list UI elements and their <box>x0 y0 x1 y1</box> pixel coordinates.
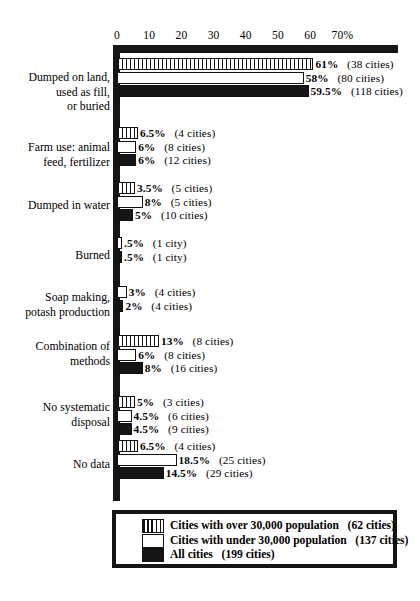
bar-value-label: 3% (4 cities) <box>127 286 196 298</box>
bar-hatch <box>117 182 135 194</box>
bar-value-label: 6% (8 cities) <box>136 349 205 361</box>
bar-percent: 3% <box>129 286 146 298</box>
bar-white <box>117 454 177 466</box>
bar-row: 6% (8 cities) <box>117 141 205 153</box>
bar-value-label: 14.5% (29 cities) <box>164 467 253 479</box>
bar-value-label: 6.5% (4 cities) <box>138 440 215 452</box>
bar-city-count: (12 cities) <box>164 154 211 166</box>
bar-black <box>117 423 132 435</box>
bar-row: 8% (5 cities) <box>117 196 212 208</box>
bar-row: 6.5% (4 cities) <box>117 127 215 139</box>
bar-percent: 8% <box>145 196 162 208</box>
legend-item: Cities with over 30,000 population (62 c… <box>142 519 393 533</box>
category-label: Dumped on land, used as fill, or buried <box>0 70 110 114</box>
bar-city-count: (38 cities) <box>347 58 394 70</box>
bar-row: 3.5% (5 cities) <box>117 182 212 194</box>
bar-value-label: 6.5% (4 cities) <box>138 127 215 139</box>
bar-value-label: .5% (1 city) <box>122 251 187 263</box>
bar-value-label: 58% (80 cities) <box>304 72 384 84</box>
bar-percent: 61% <box>315 58 338 70</box>
horizontal-bar-chart: 010203040506070% Dumped on land, used as… <box>0 0 420 601</box>
category-label: No data <box>0 457 110 472</box>
bar-black <box>117 209 133 221</box>
bar-percent: 6% <box>138 154 155 166</box>
bar-city-count: (8 cities) <box>164 141 205 153</box>
bar-city-count: (9 cities) <box>168 423 209 435</box>
bar-value-label: 18.5% (25 cities) <box>177 454 266 466</box>
bar-city-count: (8 cities) <box>164 349 205 361</box>
bar-row: 4.5% (9 cities) <box>117 423 209 435</box>
legend-swatch-black <box>142 548 164 562</box>
bar-value-label: 5% (10 cities) <box>133 209 208 221</box>
bar-row: 14.5% (29 cities) <box>117 467 253 479</box>
bar-city-count: (118 cities) <box>351 85 403 97</box>
legend-label: All cities (199 cities) <box>170 548 275 562</box>
bar-row: .5% (1 city) <box>117 237 187 249</box>
bar-row: .5% (1 city) <box>117 251 187 263</box>
chart-legend: Cities with over 30,000 population (62 c… <box>112 510 397 568</box>
legend-swatch-white <box>142 534 164 548</box>
bar-percent: 8% <box>145 362 162 374</box>
bar-percent: 13% <box>161 335 184 347</box>
bar-city-count: (5 cities) <box>171 196 212 208</box>
category-label: Dumped in water <box>0 198 110 213</box>
bar-value-label: 59.5% (118 cities) <box>309 85 403 97</box>
legend-count: (137 cities) <box>355 534 408 547</box>
bar-percent: 6% <box>138 349 155 361</box>
legend-count: (199 cities) <box>222 548 275 561</box>
bar-white <box>117 286 127 298</box>
bar-row: 5% (10 cities) <box>117 209 208 221</box>
bar-black <box>117 467 164 479</box>
bar-white <box>117 72 304 84</box>
category-label: No systematic disposal <box>0 400 110 429</box>
bar-row: 58% (80 cities) <box>117 72 384 84</box>
bar-white <box>117 349 136 361</box>
bar-value-label: 3.5% (5 cities) <box>135 182 212 194</box>
bar-city-count: (10 cities) <box>161 209 208 221</box>
bar-percent: .5% <box>124 251 144 263</box>
bar-value-label: 4.5% (6 cities) <box>132 410 209 422</box>
bar-percent: 5% <box>135 209 152 221</box>
legend-label: Cities with under 30,000 population (137… <box>170 534 408 548</box>
bar-row: 6.5% (4 cities) <box>117 440 215 452</box>
bar-value-label: 6% (8 cities) <box>136 141 205 153</box>
bar-city-count: (3 cities) <box>163 396 204 408</box>
bar-hatch <box>117 58 313 70</box>
bar-row: 6% (12 cities) <box>117 154 211 166</box>
bar-value-label: 6% (12 cities) <box>136 154 211 166</box>
bar-hatch <box>117 335 159 347</box>
category-label: Combination of methods <box>0 339 110 368</box>
legend-label: Cities with over 30,000 population (62 c… <box>170 519 395 533</box>
bar-city-count: (29 cities) <box>206 467 253 479</box>
bar-percent: 18.5% <box>179 454 211 466</box>
bar-white <box>117 196 143 208</box>
bar-percent: 58% <box>306 72 329 84</box>
legend-rows: Cities with over 30,000 population (62 c… <box>116 514 393 563</box>
bar-percent: 6% <box>138 141 155 153</box>
bar-percent: 6.5% <box>140 127 166 139</box>
bar-row: 2% (4 cities) <box>117 300 192 312</box>
legend-count: (62 cities) <box>348 519 395 532</box>
bar-city-count: (4 cities) <box>175 127 216 139</box>
bar-value-label: 13% (8 cities) <box>159 335 234 347</box>
bar-city-count: (1 city) <box>153 237 187 249</box>
bar-row: 3% (4 cities) <box>117 286 195 298</box>
bar-percent: 59.5% <box>311 85 343 97</box>
bar-value-label: 5% (3 cities) <box>135 396 204 408</box>
bar-value-label: .5% (1 city) <box>122 237 187 249</box>
legend-swatch-hatch <box>142 519 164 533</box>
legend-item: Cities with under 30,000 population (137… <box>142 534 393 548</box>
bar-city-count: (4 cities) <box>155 286 196 298</box>
bar-value-label: 2% (4 cities) <box>123 300 192 312</box>
bar-row: 13% (8 cities) <box>117 335 233 347</box>
bar-hatch <box>117 396 135 408</box>
bar-city-count: (4 cities) <box>175 440 216 452</box>
bar-row: 5% (3 cities) <box>117 396 204 408</box>
legend-item: All cities (199 cities) <box>142 548 393 562</box>
bar-percent: 14.5% <box>166 467 198 479</box>
bar-value-label: 61% (38 cities) <box>313 58 393 70</box>
bar-city-count: (5 cities) <box>172 182 213 194</box>
bar-percent: 5% <box>137 396 154 408</box>
bar-black <box>117 85 309 97</box>
bar-city-count: (8 cities) <box>193 335 234 347</box>
